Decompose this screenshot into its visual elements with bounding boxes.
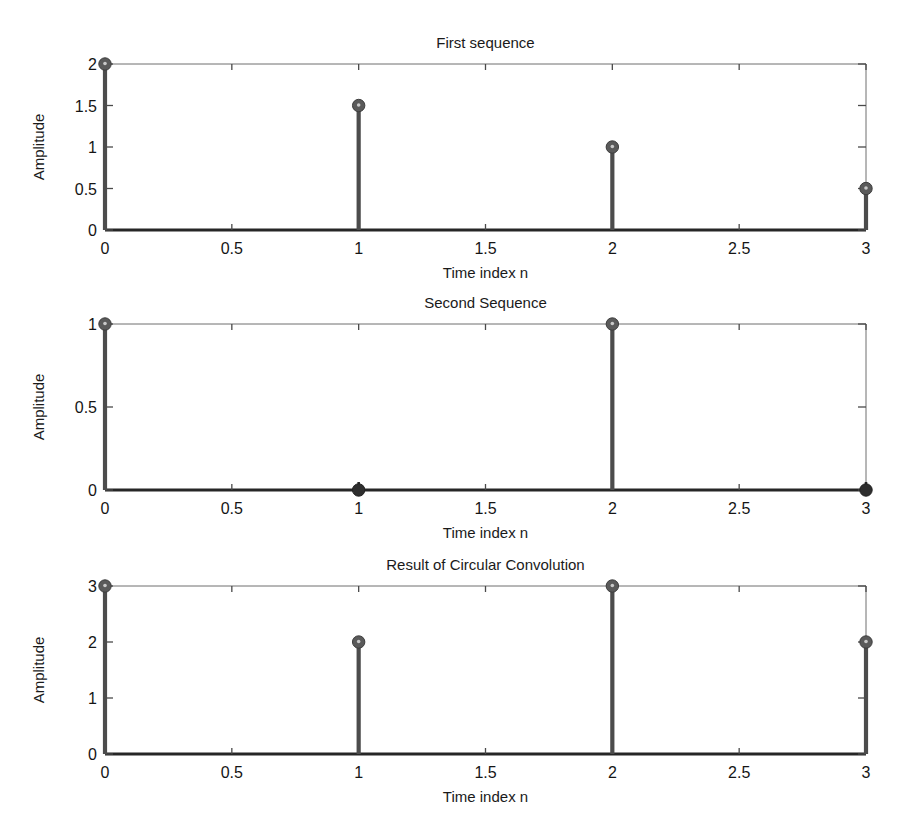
- y-tick-label: 0: [88, 222, 97, 239]
- plot-panel-first-sequence: First sequence00.511.522.5300.511.52Ampl…: [0, 24, 919, 282]
- plot-title: Second Sequence: [424, 294, 547, 311]
- y-tick-label: 2: [88, 56, 97, 73]
- x-tick-label: 2.5: [728, 764, 750, 781]
- stem-marker-center: [357, 103, 361, 107]
- x-tick-label: 3: [862, 240, 871, 257]
- x-tick-label: 3: [862, 764, 871, 781]
- y-tick-label: 1: [88, 690, 97, 707]
- y-axis-label: Amplitude: [30, 114, 47, 181]
- plot-title: Result of Circular Convolution: [386, 556, 584, 573]
- x-axis-label: Time index n: [443, 788, 528, 805]
- stem-marker-center: [103, 322, 107, 326]
- x-tick-label: 0: [101, 764, 110, 781]
- x-tick-label: 2.5: [728, 500, 750, 517]
- plot-panel-circular-convolution: Result of Circular Convolution00.511.522…: [0, 546, 919, 808]
- x-tick-label: 1.5: [474, 240, 496, 257]
- plot-panel-second-sequence: Second Sequence00.511.522.5300.51Amplitu…: [0, 284, 919, 542]
- y-tick-label: 0: [88, 482, 97, 499]
- stem-marker-zero: [352, 484, 364, 496]
- x-tick-label: 1: [354, 500, 363, 517]
- y-tick-label: 3: [88, 578, 97, 595]
- axes-frame: [105, 64, 866, 230]
- stem-marker-center: [864, 640, 868, 644]
- x-tick-label: 2: [608, 764, 617, 781]
- stem-marker-center: [864, 186, 868, 190]
- stem-chart-2: Result of Circular Convolution00.511.522…: [0, 546, 919, 808]
- stem-chart-0: First sequence00.511.522.5300.511.52Ampl…: [0, 24, 919, 282]
- y-tick-label: 1: [88, 139, 97, 156]
- stem-marker-center: [357, 640, 361, 644]
- y-tick-label: 1.5: [75, 98, 97, 115]
- stem-marker-zero: [860, 484, 872, 496]
- y-axis-label: Amplitude: [30, 637, 47, 704]
- y-axis-label: Amplitude: [30, 374, 47, 441]
- y-tick-label: 0.5: [75, 399, 97, 416]
- x-tick-label: 0: [101, 500, 110, 517]
- x-tick-label: 1: [354, 764, 363, 781]
- stem-marker-center: [103, 62, 107, 66]
- x-axis-label: Time index n: [443, 264, 528, 281]
- y-tick-label: 0: [88, 746, 97, 763]
- x-tick-label: 2: [608, 240, 617, 257]
- x-tick-label: 2.5: [728, 240, 750, 257]
- x-tick-label: 2: [608, 500, 617, 517]
- y-tick-label: 1: [88, 316, 97, 333]
- x-tick-label: 1.5: [474, 500, 496, 517]
- stem-marker-center: [611, 322, 615, 326]
- x-tick-label: 1: [354, 240, 363, 257]
- axes-frame: [105, 324, 866, 490]
- x-axis-label: Time index n: [443, 524, 528, 541]
- stem-marker-center: [611, 145, 615, 149]
- stem-marker-center: [611, 584, 615, 588]
- y-tick-label: 2: [88, 634, 97, 651]
- axes-frame: [105, 586, 866, 754]
- x-tick-label: 1.5: [474, 764, 496, 781]
- plot-title: First sequence: [436, 34, 534, 51]
- stem-marker-center: [103, 584, 107, 588]
- stem-chart-1: Second Sequence00.511.522.5300.51Amplitu…: [0, 284, 919, 542]
- y-tick-label: 0.5: [75, 181, 97, 198]
- stem-plot-figure: First sequence00.511.522.5300.511.52Ampl…: [0, 0, 919, 836]
- x-tick-label: 3: [862, 500, 871, 517]
- x-tick-label: 0.5: [221, 764, 243, 781]
- x-tick-label: 0.5: [221, 500, 243, 517]
- x-tick-label: 0: [101, 240, 110, 257]
- x-tick-label: 0.5: [221, 240, 243, 257]
